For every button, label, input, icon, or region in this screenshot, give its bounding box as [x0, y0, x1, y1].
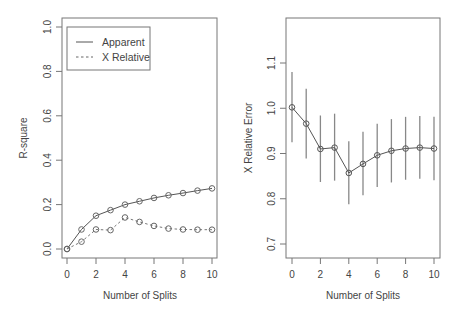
x-tick-label: 0	[64, 269, 70, 280]
left-series	[64, 186, 215, 252]
x-tick-label: 0	[289, 269, 295, 280]
y-tick-label: 1.0	[42, 20, 53, 34]
legend: Apparent X Relative	[67, 27, 150, 70]
data-point	[137, 219, 143, 225]
x-relative-error-chart: 0.70.80.91.01.1 0246810 Number of Splits…	[243, 18, 440, 301]
data-point	[79, 239, 85, 245]
legend-xrelative-label: X Relative	[102, 51, 150, 63]
right-x-axis: 0246810	[289, 258, 440, 280]
x-tick-label: 8	[180, 269, 186, 280]
right-y-axis: 0.70.80.91.01.1	[266, 56, 286, 251]
data-point	[209, 186, 215, 192]
data-point	[180, 227, 186, 233]
data-point	[79, 227, 85, 233]
data-point	[93, 227, 99, 233]
y-tick-label: 0.8	[266, 191, 277, 205]
legend-box	[67, 27, 150, 70]
right-y-axis-label: X Relative Error	[243, 102, 254, 173]
y-tick-label: 0.9	[266, 146, 277, 160]
y-tick-label: 0.2	[42, 197, 53, 211]
y-tick-label: 1.0	[266, 101, 277, 115]
x-tick-label: 6	[151, 269, 157, 280]
y-tick-label: 0.7	[266, 237, 277, 251]
y-tick-label: 0.8	[42, 64, 53, 78]
x-tick-label: 4	[122, 269, 128, 280]
data-point	[180, 190, 186, 196]
y-tick-label: 0.6	[42, 108, 53, 122]
x-tick-label: 6	[374, 269, 380, 280]
data-point	[195, 188, 201, 194]
x-tick-label: 10	[428, 269, 440, 280]
data-point	[209, 227, 215, 233]
x-tick-label: 2	[93, 269, 99, 280]
data-point	[151, 195, 157, 201]
x-tick-label: 4	[346, 269, 352, 280]
data-point	[195, 227, 201, 233]
data-point	[166, 192, 172, 198]
rsq-plots-figure: 0.00.20.40.60.81.0 0246810 Apparent X Re…	[0, 0, 458, 318]
left-x-axis: 0246810	[64, 258, 218, 280]
left-x-axis-label: Number of Splits	[103, 290, 177, 301]
y-tick-label: 0.4	[42, 153, 53, 167]
right-x-axis-label: Number of Splits	[326, 290, 400, 301]
error-bars	[292, 72, 434, 204]
left-y-axis-label: R-square	[18, 117, 29, 159]
r-square-chart: 0.00.20.40.60.81.0 0246810 Apparent X Re…	[18, 18, 218, 301]
data-point	[108, 207, 114, 213]
x-tick-label: 8	[403, 269, 409, 280]
x-tick-label: 2	[318, 269, 324, 280]
data-point	[151, 223, 157, 229]
data-point	[122, 202, 128, 208]
data-point	[93, 213, 99, 219]
data-point	[108, 227, 114, 233]
data-point	[166, 226, 172, 232]
y-tick-label: 0.0	[42, 242, 53, 256]
legend-apparent-label: Apparent	[102, 36, 145, 48]
y-tick-label: 1.1	[266, 56, 277, 70]
data-point	[137, 198, 143, 204]
left-y-axis: 0.00.20.40.60.81.0	[42, 20, 62, 256]
data-point	[64, 246, 70, 252]
x-tick-label: 10	[206, 269, 218, 280]
data-point	[122, 215, 128, 221]
